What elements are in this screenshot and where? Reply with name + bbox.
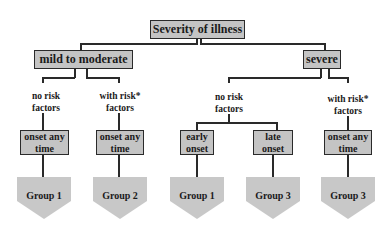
onset-box-early: early onset <box>180 130 214 155</box>
connector <box>42 155 44 177</box>
onset-box-late: late onset <box>253 130 293 155</box>
node-severe: severe <box>303 50 341 69</box>
group-label: Group 1 <box>17 190 71 201</box>
onset-line2: onset <box>186 143 208 155</box>
group-label: Group 2 <box>93 190 147 201</box>
onset-line2: time <box>111 143 130 155</box>
criteria-line1: with risk* <box>328 93 369 105</box>
connector <box>86 77 119 79</box>
group-label: Group 1 <box>170 190 224 201</box>
connector <box>228 77 230 83</box>
root-node-severity-of-illness: Severity of illness <box>150 20 245 39</box>
connector <box>42 77 44 83</box>
node-mild-to-moderate: mild to moderate <box>34 50 133 69</box>
group-label: Group 3 <box>321 190 375 201</box>
onset-box-severe-with-risk: onset any time <box>324 130 372 155</box>
connector <box>42 113 44 130</box>
group-pentagon-1: Group 1 <box>17 177 71 219</box>
connector <box>42 77 75 79</box>
connector <box>347 77 349 83</box>
group-pentagon-5: Group 3 <box>321 177 375 219</box>
criteria-label-mild-with-risk: with risk* factors <box>100 90 141 115</box>
connector <box>347 116 349 130</box>
root-node-label: Severity of illness <box>153 23 242 37</box>
connector <box>196 155 198 177</box>
group-label: Group 3 <box>246 190 300 201</box>
criteria-line2: factors <box>100 102 141 114</box>
connector <box>228 77 321 79</box>
connector <box>347 155 349 177</box>
onset-box-mild-with-risk: onset any time <box>96 130 144 155</box>
criteria-line1: no risk <box>32 90 60 102</box>
group-pentagon-2: Group 2 <box>93 177 147 219</box>
node-severe-label: severe <box>306 53 338 67</box>
criteria-line1: no risk <box>215 91 243 103</box>
criteria-label-severe-no-risk: no risk factors <box>215 91 243 116</box>
connector <box>196 122 198 130</box>
onset-line1: onset any <box>328 131 368 143</box>
criteria-label-severe-with-risk: with risk* factors <box>328 93 369 118</box>
connector <box>118 113 120 130</box>
connector <box>328 77 348 79</box>
onset-line1: early <box>186 131 208 143</box>
criteria-line2: factors <box>32 102 60 114</box>
group-pentagon-3: Group 1 <box>170 177 224 219</box>
connector <box>118 77 120 83</box>
connector <box>118 155 120 177</box>
onset-line2: time <box>35 143 54 155</box>
onset-line2: time <box>339 143 358 155</box>
onset-line2: onset <box>262 143 284 155</box>
connector <box>200 43 325 45</box>
onset-line1: late <box>265 131 281 143</box>
connector <box>80 43 198 45</box>
connector <box>272 155 274 177</box>
connector <box>324 43 326 50</box>
criteria-line1: with risk* <box>100 90 141 102</box>
connector <box>196 122 277 124</box>
criteria-label-mild-no-risk: no risk factors <box>32 90 60 115</box>
onset-box-mild-no-risk: onset any time <box>20 130 69 155</box>
connector <box>80 43 82 50</box>
connector <box>276 122 278 130</box>
group-pentagon-4: Group 3 <box>246 177 300 219</box>
onset-line1: onset any <box>24 131 64 143</box>
onset-line1: onset any <box>100 131 140 143</box>
node-mild-to-moderate-label: mild to moderate <box>40 53 128 67</box>
